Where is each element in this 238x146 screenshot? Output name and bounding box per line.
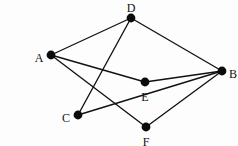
graph-edge-c-b — [78, 71, 222, 115]
graph-node-e[interactable] — [141, 78, 150, 87]
graph-node-a[interactable] — [47, 51, 56, 60]
graph-edge-e-b — [145, 71, 222, 82]
graph-node-label-a: A — [35, 51, 44, 65]
graph-node-label-c: C — [62, 111, 70, 125]
graph-node-f[interactable] — [142, 123, 151, 132]
edges-layer — [51, 18, 222, 127]
graph-edge-d-c — [78, 18, 131, 115]
graph-node-label-f: F — [143, 135, 150, 146]
graph-node-label-d: D — [127, 1, 136, 15]
graph-figure: ADBECF — [0, 0, 238, 146]
graph-node-b[interactable] — [218, 67, 227, 76]
graph-node-d[interactable] — [127, 14, 136, 23]
graph-canvas: ADBECF — [0, 0, 238, 146]
graph-node-label-e: E — [141, 90, 148, 104]
graph-edge-f-b — [146, 71, 222, 127]
graph-edge-a-d — [51, 18, 131, 55]
graph-edge-d-b — [131, 18, 222, 71]
graph-node-c[interactable] — [74, 111, 83, 120]
graph-node-label-b: B — [229, 67, 237, 81]
